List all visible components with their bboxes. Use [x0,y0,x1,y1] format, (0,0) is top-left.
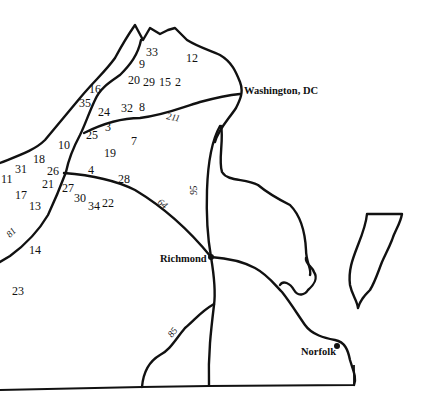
northern-border [0,25,242,163]
site-20: 20 [128,73,140,87]
site-16: 16 [89,82,101,96]
city-label-richmond: Richmond [160,253,207,264]
site-31: 31 [15,162,27,176]
route-label-211: 211 [166,111,181,124]
site-35: 35 [79,96,91,110]
site-32: 32 [121,101,133,115]
site-10: 10 [58,138,70,152]
route-east-richmond [211,257,355,385]
site-33: 33 [146,45,158,59]
site-21: 21 [42,177,54,191]
site-27: 27 [62,181,74,195]
virginia-site-map: Washington, DC Richmond Norfolk 211 95 6… [0,0,432,412]
site-11: 11 [1,172,13,186]
richmond-marker [208,254,214,260]
site-9: 9 [139,57,145,71]
site-17: 17 [15,188,27,202]
site-18: 18 [33,152,45,166]
bay-western-shore [221,126,311,275]
site-7: 7 [131,134,137,148]
site-13: 13 [29,199,41,213]
route-label-64: 64 [156,197,170,211]
site-26: 26 [47,164,59,178]
site-29: 29 [143,75,155,89]
site-24: 24 [98,105,110,119]
site-12: 12 [186,51,198,65]
site-14: 14 [29,243,41,257]
bay-inlet [280,258,316,295]
site-22: 22 [102,196,114,210]
site-4: 4 [88,163,94,177]
delmarva-peninsula [350,214,402,308]
site-8: 8 [139,100,145,114]
city-label-washington: Washington, DC [244,85,318,96]
site-34: 34 [88,199,100,213]
site-30: 30 [74,191,86,205]
site-3: 3 [105,120,111,134]
site-15: 15 [159,75,171,89]
city-label-norfolk: Norfolk [301,346,336,357]
site-28: 28 [118,172,130,186]
route-label-95: 95 [189,185,199,195]
site-25: 25 [86,128,98,142]
route-label-81: 81 [4,226,18,240]
blue-ridge-line [0,40,141,262]
site-19: 19 [104,146,116,160]
route-85 [142,304,214,387]
site-2: 2 [175,75,181,89]
site-23: 23 [12,284,24,298]
southern-border [0,365,354,390]
